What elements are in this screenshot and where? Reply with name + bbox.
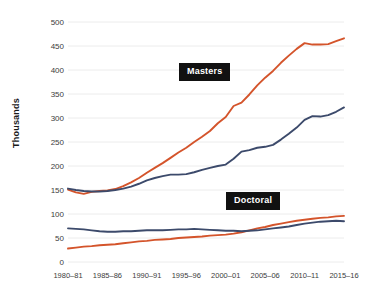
series-label-masters: Masters [179, 63, 230, 81]
series-line-masters-0 [68, 38, 344, 194]
plot-area [0, 0, 368, 296]
x-tick-1985-86: 1985–86 [93, 271, 122, 280]
x-tick-1995-96: 1995–96 [172, 271, 201, 280]
x-tick-2010-11: 2010–11 [290, 271, 319, 280]
series-line-doctoral-3 [68, 221, 344, 232]
x-tick-1980-81: 1980–81 [53, 271, 82, 280]
x-tick-1990-91: 1990–91 [132, 271, 161, 280]
chart-container: Thousands 050100150200250300350400450500… [0, 0, 368, 296]
x-tick-2005-06: 2005–06 [251, 271, 280, 280]
x-tick-2015-16: 2015–16 [329, 271, 358, 280]
series-line-masters-1 [68, 107, 344, 191]
x-tick-2000-01: 2000–01 [211, 271, 240, 280]
series-label-doctoral: Doctoral [226, 192, 280, 210]
